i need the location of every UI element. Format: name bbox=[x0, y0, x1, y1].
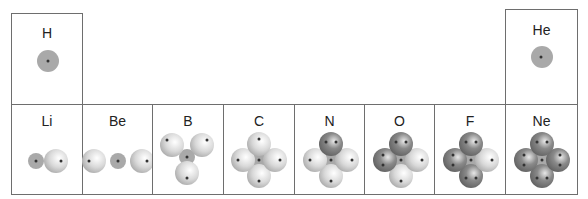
orbital-diagram-o bbox=[365, 105, 436, 196]
element-cell-h: H bbox=[11, 13, 83, 105]
element-cell-f: F bbox=[434, 104, 506, 195]
element-cell-he: He bbox=[505, 9, 578, 105]
orbital-diagram-n bbox=[295, 105, 366, 196]
orbital-diagram-h bbox=[12, 14, 84, 106]
orbital-diagram-he bbox=[506, 10, 579, 106]
orbital-diagram-be bbox=[83, 105, 154, 196]
element-cell-be: Be bbox=[82, 104, 153, 195]
orbital-diagram-li bbox=[12, 105, 84, 196]
orbital-diagram-f bbox=[435, 105, 507, 196]
orbital-diagram-c bbox=[224, 105, 296, 196]
element-cell-b: B bbox=[152, 104, 224, 195]
element-cell-n: N bbox=[294, 104, 365, 195]
orbital-diagram-ne bbox=[506, 105, 579, 196]
orbital-diagram-b bbox=[153, 105, 225, 196]
element-cell-li: Li bbox=[11, 104, 83, 195]
element-cell-o: O bbox=[364, 104, 435, 195]
element-cell-c: C bbox=[223, 104, 295, 195]
element-cell-ne: Ne bbox=[505, 104, 578, 195]
